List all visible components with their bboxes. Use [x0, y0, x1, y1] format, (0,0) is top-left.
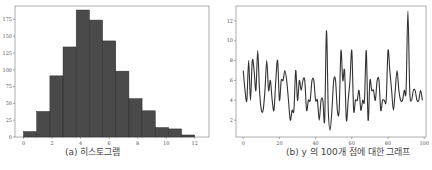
- histogram-bar: [142, 111, 155, 137]
- histogram-ytick-label: 100: [2, 67, 12, 73]
- histogram-xtick-label: 10: [163, 140, 169, 146]
- histogram-bar: [103, 41, 116, 137]
- histogram-ytick-label: 150: [2, 33, 12, 39]
- line-chart: 02040608010024681012: [227, 6, 429, 146]
- histogram-bar: [24, 132, 37, 137]
- line-chart-xtick-label: 0: [242, 140, 245, 146]
- line-chart-ytick-label: 12: [227, 18, 233, 24]
- line-chart-xtick-label: 20: [276, 140, 282, 146]
- line-chart-ytick-label: 6: [230, 77, 233, 83]
- histogram-bar: [116, 71, 129, 137]
- histogram-ytick-label: 25: [6, 117, 12, 123]
- line-series: [243, 11, 422, 130]
- histogram-bar: [182, 135, 195, 137]
- histogram-xtick-label: 12: [192, 140, 198, 146]
- line-chart-ytick-label: 10: [227, 37, 233, 43]
- histogram-caption: (a) 히스토그램: [65, 145, 120, 158]
- histogram-bar: [129, 99, 142, 137]
- histogram-ytick-label: 50: [6, 100, 12, 106]
- histogram-bar: [155, 128, 168, 137]
- histogram-bar: [37, 111, 50, 137]
- histogram-ytick-label: 0: [9, 134, 12, 140]
- histogram-xtick-label: 8: [136, 140, 139, 146]
- line-chart-ytick-label: 4: [230, 97, 233, 103]
- histogram-bar: [76, 10, 89, 137]
- line-chart-ytick-label: 2: [230, 117, 233, 123]
- histogram-xtick-label: 0: [22, 140, 25, 146]
- histogram-bar: [89, 20, 102, 137]
- histogram-bar: [63, 47, 76, 137]
- line-chart-caption: (b) y 의 100개 점에 대한 그래프: [286, 145, 410, 158]
- histogram-chart: 0246810120255075100125150175: [2, 6, 209, 146]
- line-chart-ytick-label: 8: [230, 57, 233, 63]
- histogram-xtick-label: 2: [50, 140, 53, 146]
- histogram-ytick-label: 125: [2, 50, 12, 56]
- histogram-bar: [168, 129, 181, 137]
- histogram-ytick-label: 175: [2, 16, 12, 22]
- line-chart-xtick-label: 100: [419, 140, 429, 146]
- histogram-bar: [50, 76, 63, 137]
- histogram-ytick-label: 75: [6, 83, 12, 89]
